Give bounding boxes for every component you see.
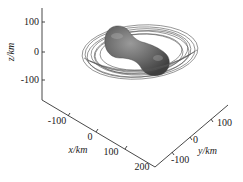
z-axis: 100 0 -100 z/km xyxy=(5,8,45,100)
plot-3d: 100 0 -100 z/km -100 0 100 200 x/km -100… xyxy=(0,0,243,182)
z-tick-100: 100 xyxy=(24,16,39,27)
x-tick-neg100: -100 xyxy=(48,115,66,126)
x-tick-100: 100 xyxy=(104,146,119,157)
z-axis-label: z/km xyxy=(5,43,16,62)
y-tick-neg100: -100 xyxy=(171,154,189,165)
z-tick-neg100: -100 xyxy=(21,74,39,85)
x-tick-0: 0 xyxy=(88,131,93,142)
y-tick-0: 0 xyxy=(193,134,198,145)
x-tick-200: 200 xyxy=(135,161,150,172)
y-axis: -100 0 100 y/km xyxy=(155,105,232,167)
y-tick-100: 100 xyxy=(217,117,232,128)
z-tick-0: 0 xyxy=(34,46,39,57)
y-axis-label: y/km xyxy=(197,145,217,156)
x-axis: -100 0 100 200 x/km xyxy=(42,100,155,172)
x-axis-label: x/km xyxy=(68,144,88,155)
